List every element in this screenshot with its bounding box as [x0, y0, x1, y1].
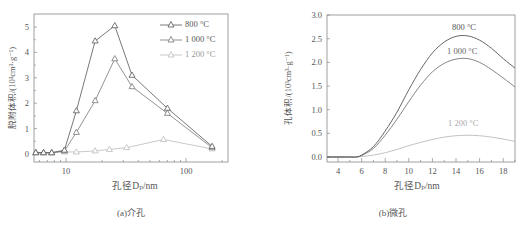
triangle-marker-icon [112, 56, 118, 61]
y-tick-label: 2 [25, 98, 29, 108]
y-axis-label: 脱附体积/(10³cm³·g⁻¹) [5, 33, 17, 143]
y-tick-label: 0.0 [311, 152, 322, 162]
legend-label: 1 200 °C [185, 49, 215, 59]
y-tick-label: 1 [25, 124, 29, 134]
triangle-marker-icon [73, 108, 79, 113]
chart-legend: 800 °C 1 000 °C 1 200 °C [160, 16, 215, 61]
x-tick-label: 12 [428, 166, 437, 176]
chart-panel-mesopore: 01234510100 脱附体积/(10³cm³·g⁻¹) 孔径Dₚ/nm 80… [0, 0, 262, 226]
x-tick-label: 4 [336, 166, 341, 176]
legend-label: 800 °C [185, 19, 209, 29]
triangle-marker-icon [41, 150, 47, 155]
series-line [327, 135, 515, 157]
triangle-marker-icon [112, 23, 118, 28]
series-line [36, 59, 212, 153]
y-tick-label: 2.0 [311, 57, 322, 67]
curve-label-1000: 1 000 °C [447, 46, 477, 56]
triangle-marker-icon [160, 19, 182, 29]
y-tick-label: 0.5 [311, 128, 322, 138]
figure-caption: (a)介孔 [0, 206, 262, 219]
plot-frame [327, 15, 515, 162]
curve-label-800: 800 °C [452, 22, 476, 32]
y-tick-label: 3 [25, 73, 29, 83]
y-tick-label: 1.0 [311, 105, 322, 115]
mesopore-chart-plot: 01234510100 [0, 0, 262, 226]
x-tick-label: 8 [383, 166, 387, 176]
y-tick-label: 4 [25, 47, 30, 57]
y-tick-label: 1.5 [311, 81, 322, 91]
x-tick-label: 10 [405, 166, 414, 176]
legend-label: 1 000 °C [185, 34, 215, 44]
triangle-marker-icon [92, 97, 98, 102]
triangle-marker-icon [161, 136, 167, 141]
micropore-chart-plot: 0.00.51.01.52.02.53.04681012141618 [262, 0, 524, 226]
y-axis-label: 孔体积/(10³cm³·g⁻¹) [281, 33, 293, 143]
y-tick-label: 2.5 [311, 34, 322, 44]
triangle-marker-icon [73, 129, 79, 134]
series-line [327, 36, 515, 158]
legend-item-1000: 1 000 °C [160, 31, 215, 46]
triangle-marker-icon [129, 72, 135, 77]
x-tick-label: 14 [452, 166, 461, 176]
x-axis-label: 孔径Dₚ/nm [372, 178, 462, 192]
x-tick-label: 10 [62, 166, 71, 176]
triangle-marker-icon [160, 34, 182, 44]
figure-caption: (b)微孔 [262, 206, 524, 219]
chart-panel-micropore: 0.00.51.01.52.02.53.04681012141618 孔体积/(… [262, 0, 524, 226]
legend-item-800: 800 °C [160, 16, 215, 31]
curve-label-1200: 1 200 °C [448, 118, 478, 128]
triangle-marker-icon [92, 38, 98, 43]
x-tick-label: 6 [359, 166, 363, 176]
x-axis-label: 孔径Dₚ/nm [90, 178, 180, 192]
legend-item-1200: 1 200 °C [160, 46, 215, 61]
triangle-marker-icon [129, 83, 135, 88]
x-tick-label: 16 [475, 166, 484, 176]
x-tick-label: 100 [180, 166, 193, 176]
triangle-marker-icon [73, 149, 79, 154]
y-tick-label: 5 [25, 22, 29, 32]
triangle-marker-icon [164, 110, 170, 115]
y-tick-label: 0 [25, 149, 29, 159]
y-tick-label: 3.0 [311, 10, 322, 20]
x-tick-label: 18 [499, 166, 508, 176]
triangle-marker-icon [160, 49, 182, 59]
